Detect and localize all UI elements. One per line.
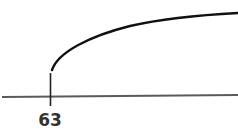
horizontal-axis xyxy=(2,95,238,97)
curve xyxy=(52,13,238,70)
tick-label-63: 63 xyxy=(34,110,66,130)
